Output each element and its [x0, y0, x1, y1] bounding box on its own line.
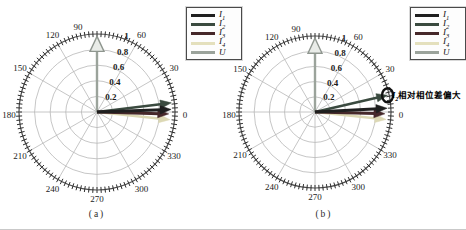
angle-label-240: 240 — [265, 182, 279, 192]
angle-tick — [160, 153, 165, 156]
angle-tick — [49, 46, 53, 51]
radius-label-0.8: 0.8 — [117, 47, 129, 57]
radius-label-1: 1 — [342, 33, 347, 43]
angle-tick — [307, 33, 308, 39]
figure-root: 03060901201501802102402703003300.20.40.6… — [0, 0, 466, 230]
angle-tick — [158, 156, 163, 160]
radius-label-0.4: 0.4 — [327, 78, 339, 88]
angle-label-150: 150 — [13, 63, 27, 73]
angle-label-270: 270 — [308, 192, 322, 202]
angle-tick — [272, 173, 275, 178]
angle-tick — [89, 187, 90, 193]
legend-line-swatch — [415, 32, 439, 35]
angle-tick — [89, 31, 90, 37]
polar-plot-b: 03060901201501802102402703003300.20.40.6… — [222, 24, 404, 202]
angle-tick — [236, 104, 242, 105]
legend-entry-I3: I3 — [415, 29, 461, 38]
radius-label-0.8: 0.8 — [335, 48, 347, 58]
angle-tick — [376, 69, 381, 72]
angle-label-180: 180 — [222, 110, 236, 120]
radius-label-0.6: 0.6 — [113, 62, 125, 72]
legend-entry-U: U — [191, 48, 237, 57]
legend-line-swatch — [191, 23, 215, 26]
angle-tick — [237, 123, 243, 124]
angle-tick — [31, 64, 36, 68]
angle-tick — [323, 33, 324, 39]
legend-line-swatch — [191, 32, 215, 35]
legend-line-swatch — [415, 42, 439, 45]
vector-head-U — [308, 38, 322, 53]
angle-label-90: 90 — [292, 24, 302, 34]
angle-tick — [307, 185, 308, 191]
angle-tick — [138, 44, 141, 49]
angle-tick — [251, 66, 256, 70]
angle-label-300: 300 — [135, 184, 149, 194]
angle-tick — [303, 34, 304, 40]
angle-tick — [358, 48, 362, 53]
radius-label-0.4: 0.4 — [109, 77, 121, 87]
angle-label-330: 330 — [383, 150, 397, 160]
angle-tick — [160, 68, 165, 71]
legend-entry-I1: I1 — [415, 11, 461, 20]
angle-tick — [53, 44, 56, 49]
angle-label-180: 180 — [2, 110, 16, 120]
legend-entry-I1: I1 — [191, 11, 237, 20]
angle-tick — [109, 186, 110, 192]
angle-tick — [84, 186, 85, 192]
angle-tick — [16, 104, 22, 105]
angle-label-120: 120 — [46, 30, 60, 40]
angle-tick — [237, 100, 243, 101]
angle-tick — [80, 185, 81, 191]
angle-tick — [141, 46, 145, 51]
angle-tick — [84, 32, 85, 38]
angle-tick — [113, 33, 114, 39]
angle-tick — [387, 123, 393, 124]
radius-label-0.2: 0.2 — [105, 92, 117, 102]
angle-tick — [326, 184, 327, 190]
angle-tick — [17, 124, 23, 125]
angle-tick — [31, 156, 36, 160]
radius-label-0.2: 0.2 — [323, 92, 335, 102]
angle-tick — [238, 127, 244, 128]
legend-line-swatch — [191, 42, 215, 45]
angle-tick — [170, 128, 176, 129]
angle-label-210: 210 — [233, 150, 247, 160]
legend-box-a: I1I2I3I4U — [186, 7, 242, 60]
angle-label-30: 30 — [170, 63, 180, 73]
angle-tick — [249, 69, 254, 72]
caption-a: (a) — [57, 209, 137, 219]
legend-line-swatch — [415, 14, 439, 17]
angle-tick — [272, 46, 275, 51]
legend-box-b: I1I2I3I4U — [410, 7, 466, 60]
angle-label-330: 330 — [167, 151, 181, 161]
angle-tick — [29, 153, 34, 156]
legend-line-swatch — [191, 14, 215, 17]
angle-tick — [105, 187, 106, 193]
angle-tick — [376, 152, 381, 155]
radius-label-0.6: 0.6 — [331, 63, 343, 73]
angle-label-270: 270 — [90, 194, 104, 204]
angle-tick — [251, 155, 256, 159]
angle-label-30: 30 — [386, 64, 396, 74]
angle-tick — [330, 35, 331, 41]
annotation-text: 相对相位差偏大 — [398, 90, 461, 100]
angle-tick — [80, 33, 81, 39]
angle-tick — [355, 173, 358, 178]
angle-tick — [16, 120, 22, 121]
angle-tick — [109, 32, 110, 38]
angle-tick — [269, 171, 273, 176]
angle-tick — [330, 183, 331, 189]
vector-head-U — [90, 36, 104, 51]
angle-tick — [141, 173, 145, 178]
angle-tick — [105, 31, 106, 37]
page-rule — [0, 229, 466, 230]
caption-b: (b) — [284, 209, 364, 219]
angle-tick — [388, 120, 394, 121]
angle-label-210: 210 — [13, 151, 27, 161]
angle-label-90: 90 — [74, 22, 84, 32]
angle-tick — [238, 96, 244, 97]
angle-tick — [29, 68, 34, 71]
angle-tick — [374, 155, 379, 159]
angle-tick — [49, 173, 53, 178]
radius-label-1: 1 — [124, 31, 129, 41]
